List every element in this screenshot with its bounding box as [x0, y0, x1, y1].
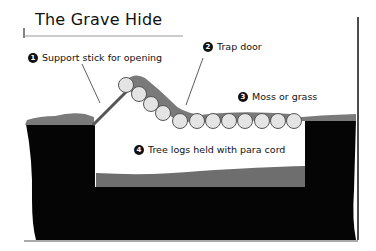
pit-floor — [96, 166, 305, 187]
diagram-graphic — [0, 0, 376, 251]
label-tree-logs: 4 Tree logs held with para cord — [134, 144, 285, 155]
left-moss — [25, 113, 94, 125]
label-text-4: Tree logs held with para cord — [148, 144, 285, 155]
leader-line-2 — [186, 58, 203, 105]
label-text-3: Moss or grass — [252, 91, 317, 102]
number-badge-2: 2 — [203, 42, 213, 52]
number-badge-1: 1 — [28, 53, 38, 63]
label-text-1: Support stick for opening — [42, 52, 162, 63]
number-badge-3: 3 — [238, 92, 248, 102]
support-stick — [93, 88, 130, 125]
grave-hide-diagram: The Grave Hide 1 Support stick for openi… — [0, 0, 376, 251]
label-trap-door: 2 Trap door — [203, 41, 262, 52]
number-badge-4: 4 — [134, 145, 144, 155]
label-moss: 3 Moss or grass — [238, 91, 317, 102]
label-support-stick: 1 Support stick for opening — [28, 52, 162, 63]
label-text-2: Trap door — [217, 41, 262, 52]
diagram-title: The Grave Hide — [35, 10, 162, 29]
leader-line-1 — [82, 64, 100, 103]
